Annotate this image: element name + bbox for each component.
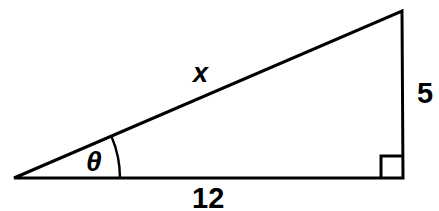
triangle-outline	[14, 11, 403, 178]
adjacent-side-label: 12	[192, 184, 224, 211]
opposite-side-label: 5	[417, 79, 433, 108]
triangle-figure: x θ 5 12	[0, 0, 439, 211]
angle-label: θ	[86, 148, 102, 176]
triangle-drawing	[0, 0, 439, 211]
hypotenuse-label: x	[193, 60, 208, 87]
